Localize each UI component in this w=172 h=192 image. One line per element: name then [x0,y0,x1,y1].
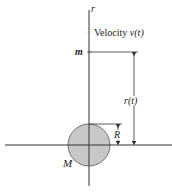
velocity-dot [88,32,91,35]
diagram-graphics [0,0,172,192]
mass-large-label: M [63,158,72,169]
axis-label: r [91,4,95,14]
gravity-diagram: r Velocity v(t) m r(t) R M [0,0,172,192]
velocity-label: Velocity v(t) [94,28,144,38]
mass-small-label: m [75,47,83,57]
distance-label: r(t) [124,96,137,106]
velocity-text: Velocity [94,27,127,38]
radius-label: R [114,130,120,140]
velocity-symbol: v(t) [130,27,144,38]
